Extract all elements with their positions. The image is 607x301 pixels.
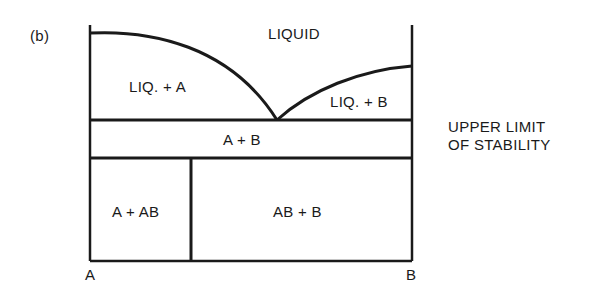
axis-label-b: B <box>406 266 416 283</box>
region-liq-a: LIQ. + A <box>129 78 186 95</box>
region-a-ab: A + AB <box>112 203 159 220</box>
stability-annotation: UPPER LIMIT OF STABILITY <box>448 118 551 154</box>
liquidus-curve-a <box>90 33 277 120</box>
region-ab-b: AB + B <box>273 203 322 220</box>
axis-label-a: A <box>85 266 95 283</box>
panel-label: (b) <box>30 27 49 44</box>
region-a-b: A + B <box>223 131 261 148</box>
annotation-line-1: UPPER LIMIT <box>448 118 551 136</box>
region-liq-b: LIQ. + B <box>330 93 388 110</box>
region-liquid: LIQUID <box>268 25 320 42</box>
annotation-line-2: OF STABILITY <box>448 136 551 154</box>
